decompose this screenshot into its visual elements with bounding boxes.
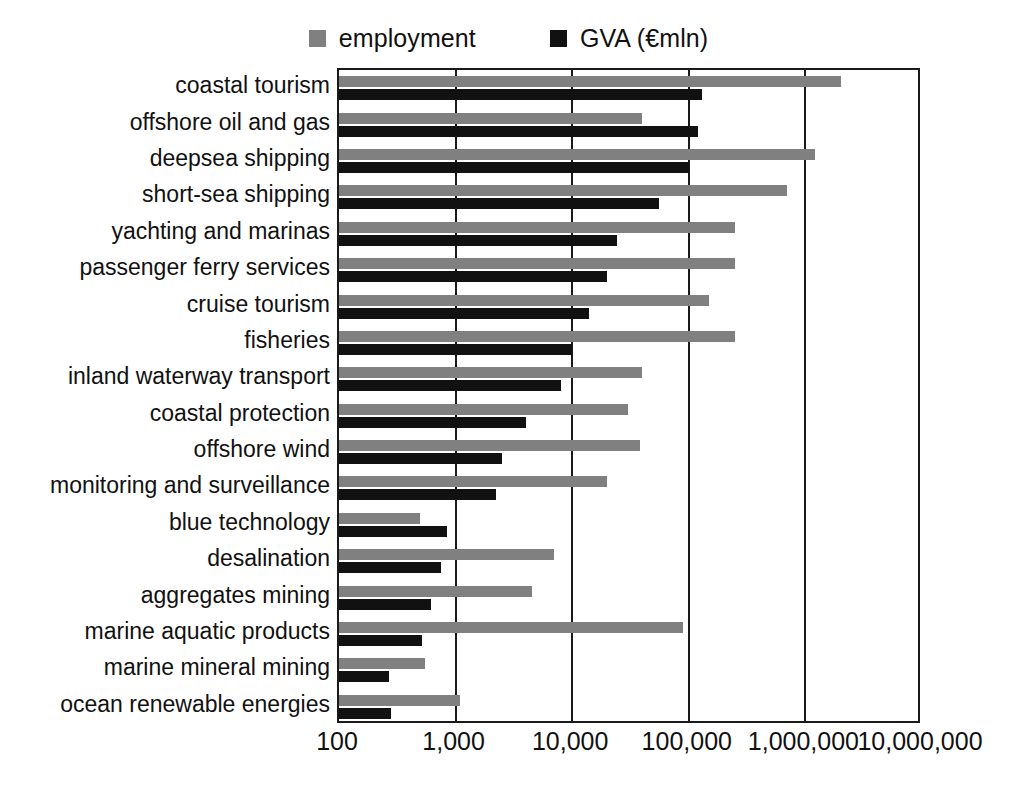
legend-entry-gva: GVA (€mln) [550,26,708,51]
chart-bar-rows [339,70,918,721]
x-tick-label: 100 [316,729,358,754]
bar-row [339,616,918,652]
chart-legend: employment GVA (€mln) [0,18,1017,58]
bar-gva [339,198,659,209]
category-label: passenger ferry services [0,256,330,279]
category-label: aggregates mining [0,584,330,607]
bar-row [339,398,918,434]
legend-swatch-gva [550,30,567,47]
legend-entry-employment: employment [309,26,476,51]
category-label: deepsea shipping [0,147,330,170]
bar-row [339,216,918,252]
category-label: offshore wind [0,438,330,461]
bar-employment [339,367,642,378]
bar-employment [339,549,554,560]
bar-employment [339,222,735,233]
bar-employment [339,440,640,451]
bar-employment [339,404,628,415]
bar-employment [339,295,709,306]
bar-gva [339,89,702,100]
bar-employment [339,149,815,160]
bar-row [339,106,918,142]
bar-row [339,579,918,615]
y-axis-category-labels: coastal tourismoffshore oil and gasdeeps… [0,68,330,723]
bar-employment [339,258,735,269]
category-label: fisheries [0,329,330,352]
bar-gva [339,344,572,355]
bar-row [339,507,918,543]
x-axis-tick-labels: 1001,00010,000100,0001,000,00010,000,000 [0,729,1017,769]
bar-row [339,143,918,179]
bar-employment [339,695,460,706]
bar-gva [339,162,689,173]
bar-row [339,689,918,725]
category-label: desalination [0,547,330,570]
bar-row [339,652,918,688]
bar-gva [339,635,422,646]
category-label: marine aquatic products [0,620,330,643]
legend-swatch-employment [309,30,326,47]
bar-gva [339,671,389,682]
bar-gva [339,708,391,719]
bar-row [339,252,918,288]
bar-gva [339,453,502,464]
bar-employment [339,513,420,524]
x-tick-label: 10,000,000 [857,729,982,754]
bar-row [339,470,918,506]
x-tick-label: 100,000 [642,729,732,754]
bar-employment [339,113,642,124]
bar-gva [339,380,561,391]
x-tick-label: 10,000 [532,729,608,754]
bar-gva [339,599,431,610]
bar-row [339,543,918,579]
bar-gva [339,526,447,537]
bar-gva [339,562,441,573]
bar-row [339,325,918,361]
legend-label-gva: GVA (€mln) [580,26,708,51]
category-label: offshore oil and gas [0,111,330,134]
category-label: coastal tourism [0,74,330,97]
bar-gva [339,126,698,137]
bar-employment [339,76,841,87]
bar-gva [339,489,496,500]
bar-row [339,179,918,215]
chart-plot-area [337,68,920,723]
category-label: blue technology [0,511,330,534]
bar-employment [339,658,425,669]
x-tick-label: 1,000 [422,729,485,754]
bar-employment [339,476,607,487]
bar-employment [339,586,532,597]
category-label: marine mineral mining [0,656,330,679]
bar-employment [339,331,735,342]
category-label: short-sea shipping [0,183,330,206]
category-label: ocean renewable energies [0,693,330,716]
category-label: coastal protection [0,402,330,425]
legend-label-employment: employment [339,26,476,51]
bar-row [339,70,918,106]
category-label: monitoring and surveillance [0,474,330,497]
category-label: cruise tourism [0,293,330,316]
bar-row [339,288,918,324]
x-tick-label: 1,000,000 [748,729,859,754]
bar-gva [339,235,617,246]
bar-employment [339,185,787,196]
bar-employment [339,622,683,633]
bar-gva [339,271,607,282]
category-label: yachting and marinas [0,220,330,243]
bar-row [339,361,918,397]
bar-row [339,434,918,470]
bar-gva [339,308,589,319]
category-label: inland waterway transport [0,365,330,388]
bar-gva [339,417,526,428]
